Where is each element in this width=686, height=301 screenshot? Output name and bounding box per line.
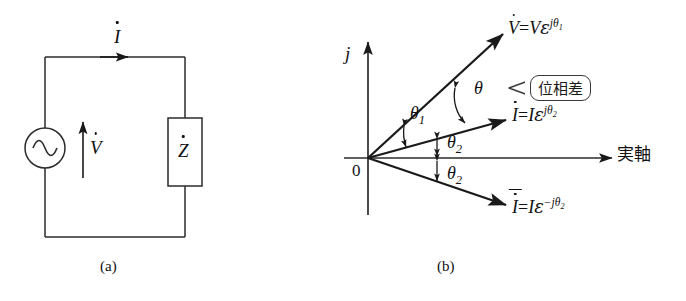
impedance-label: Z (178, 141, 189, 160)
caption-a: (a) (100, 258, 117, 275)
voltage-label: V (90, 138, 102, 157)
phase-difference-callout-text: 位相差 (538, 80, 583, 98)
current-symbol: I (114, 27, 120, 46)
voltage-symbol: V (90, 138, 102, 157)
theta-1-arc (404, 126, 406, 147)
current-phasor-base: ε (534, 104, 544, 125)
figure-root: I V Z (a) j 0 実軸 V=Vεjθ1 I=Iεjθ2 I=Iε−jθ… (0, 0, 686, 301)
phase-difference-callout: 位相差 (530, 75, 591, 101)
voltage-phasor-lhs: V (508, 19, 519, 37)
voltage-phasor-exponent: jθ1 (550, 17, 563, 29)
voltage-phasor-label: V=Vεjθ1 (508, 18, 563, 37)
theta-1-label: θ1 (410, 104, 425, 126)
conjugate-current-phasor-label: I=Iε−jθ2 (512, 197, 565, 216)
conjugate-current-phasor-exponent: −jθ2 (544, 196, 565, 208)
origin-label: 0 (352, 162, 361, 179)
current-phasor-lhs: I (512, 106, 518, 124)
impedance-symbol: Z (178, 141, 189, 160)
figure-canvas (0, 0, 686, 301)
voltage-phasor-equals: = (519, 18, 529, 38)
conjugate-current-phasor-lhs: I (512, 198, 518, 216)
conjugate-bar-wrap: I (512, 198, 518, 216)
voltage-phasor-magnitude: V (529, 18, 540, 38)
voltage-phasor-base: ε (540, 17, 550, 38)
theta-phase-label: θ (474, 79, 483, 101)
circuit-diagram (25, 57, 202, 237)
conjugate-current-phasor-base: ε (534, 196, 544, 217)
ac-source-icon (25, 128, 65, 168)
real-axis-label: 実軸 (617, 146, 651, 163)
phasor-diagram (344, 34, 612, 215)
imaginary-axis-label: j (345, 44, 350, 63)
theta-2-lower-label: θ2 (447, 164, 462, 186)
conjugate-current-phasor-equals: = (518, 197, 528, 217)
theta-2-upper-label: θ2 (447, 133, 462, 155)
caption-b: (b) (437, 258, 455, 275)
current-phasor-label: I=Iεjθ2 (512, 105, 557, 124)
current-phasor-equals: = (518, 105, 528, 125)
current-phasor-exponent: jθ2 (544, 104, 557, 116)
theta-phase-arc (454, 88, 465, 123)
current-label: I (114, 27, 120, 46)
